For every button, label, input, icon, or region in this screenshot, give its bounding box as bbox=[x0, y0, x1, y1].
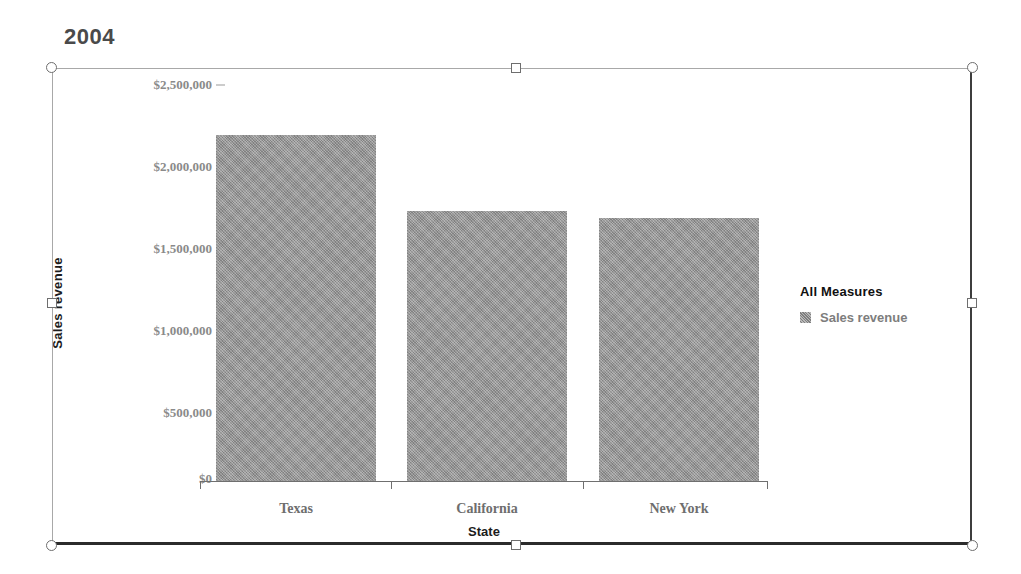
selection-frame[interactable] bbox=[52, 68, 972, 545]
resize-handle-middle-right[interactable] bbox=[967, 298, 977, 308]
resize-handle-bottom-center[interactable] bbox=[511, 540, 521, 550]
resize-handle-top-right[interactable] bbox=[967, 62, 978, 73]
resize-handle-bottom-left[interactable] bbox=[46, 540, 57, 551]
resize-handle-bottom-right[interactable] bbox=[967, 540, 978, 551]
resize-handle-middle-left[interactable] bbox=[47, 298, 57, 308]
page-title: 2004 bbox=[64, 24, 115, 50]
resize-handle-top-center[interactable] bbox=[511, 63, 521, 73]
resize-handle-top-left[interactable] bbox=[46, 62, 57, 73]
